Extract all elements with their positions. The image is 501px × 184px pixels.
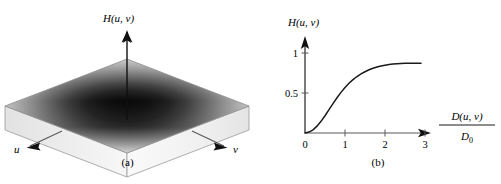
u-axis-arrow: [27, 142, 41, 150]
panel-b-caption: (b): [255, 156, 501, 168]
x-axis-tick-labels: 0 1 2 3: [302, 139, 427, 150]
svg-text:1: 1: [342, 139, 347, 150]
svg-text:D0: D0: [460, 130, 473, 145]
svg-text:1: 1: [293, 48, 298, 59]
figure-container: u v H(u, v) (a): [0, 0, 501, 184]
u-axis-label: u: [14, 143, 20, 155]
y-axis-tick-labels: 0.5 1: [285, 48, 298, 99]
filter-response-curve: [305, 63, 421, 133]
svg-text:3: 3: [422, 139, 427, 150]
svg-text:0.5: 0.5: [285, 88, 298, 99]
v-axis-label: v: [233, 143, 238, 155]
panel-a-caption: (a): [0, 156, 255, 168]
panel-b-line-plot: 0 1 2 3 0.5 1 H(u, v): [255, 0, 501, 184]
panel-a-surface-plot: u v H(u, v) (a): [0, 0, 255, 184]
svg-text:0: 0: [302, 139, 307, 150]
panel-a-h-axis-label: H(u, v): [102, 12, 134, 25]
v-axis-arrow: [213, 142, 227, 150]
panel-b-y-axis-label: H(u, v): [287, 16, 319, 29]
panel-b-x-axis-label: D(u, v) D0: [439, 110, 495, 145]
svg-text:2: 2: [382, 139, 387, 150]
svg-text:D(u, v): D(u, v): [450, 110, 482, 123]
